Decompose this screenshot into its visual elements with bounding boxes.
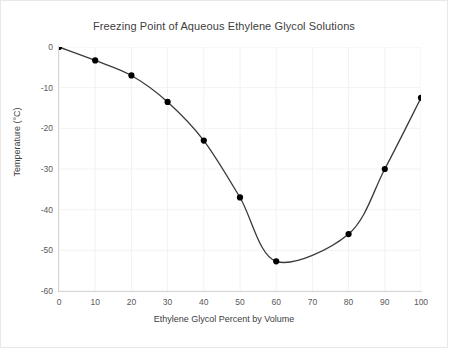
x-tick-label: 80 — [344, 297, 353, 307]
series-plot: 0, 010, -3.320, -730, -13.540, -2350, -3… — [59, 47, 421, 291]
x-tick-label: 40 — [199, 297, 208, 307]
y-axis-title: Temperature (°C) — [12, 82, 22, 202]
x-tick-label: 20 — [127, 297, 136, 307]
chart-container: Freezing Point of Aqueous Ethylene Glyco… — [0, 0, 448, 348]
data-point-marker: 50, -37 — [237, 194, 243, 200]
y-tick-label: 0 — [48, 42, 53, 52]
data-point-marker: 30, -13.5 — [165, 99, 171, 105]
x-tick-label: 90 — [380, 297, 389, 307]
y-tick-label: -10 — [41, 83, 53, 93]
x-tick-label: 0 — [57, 297, 62, 307]
data-point-marker: 10, -3.3 — [92, 57, 98, 63]
y-tick-label: -20 — [41, 123, 53, 133]
data-point-marker: 90, -30 — [382, 166, 388, 172]
x-tick-label: 10 — [90, 297, 99, 307]
data-point-marker: 0, 0 — [59, 47, 62, 50]
x-tick-label: 60 — [271, 297, 280, 307]
data-point-marker: 100, -12.5 — [418, 95, 421, 101]
y-tick-label: -30 — [41, 164, 53, 174]
x-tick-label: 100 — [414, 297, 428, 307]
y-axis-tick-labels: 0-10-20-30-40-50-60 — [1, 1, 53, 350]
x-axis-title: Ethylene Glycol Percent by Volume — [1, 314, 447, 324]
x-tick-label: 70 — [308, 297, 317, 307]
plot-area: 0, 010, -3.320, -730, -13.540, -2350, -3… — [59, 47, 421, 291]
x-tick-label: 30 — [163, 297, 172, 307]
data-point-marker: 40, -23 — [201, 137, 207, 143]
data-point-marker: 60, -52.7 — [273, 258, 279, 264]
chart-title: Freezing Point of Aqueous Ethylene Glyco… — [1, 20, 447, 32]
data-point-marker: 20, -7 — [128, 72, 134, 78]
data-point-marker: 80, -46 — [346, 231, 352, 237]
y-tick-label: -60 — [41, 286, 53, 296]
y-tick-label: -40 — [41, 205, 53, 215]
x-axis-line — [58, 291, 422, 292]
y-tick-label: -50 — [41, 245, 53, 255]
x-tick-label: 50 — [235, 297, 244, 307]
